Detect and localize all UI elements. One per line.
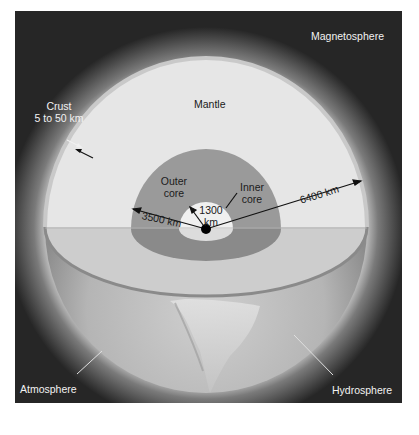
label-mantle: Mantle (194, 98, 226, 110)
label-hydrosphere: Hydrosphere (332, 384, 392, 396)
label-outer-core: Outer core (156, 175, 192, 199)
label-atmosphere: Atmosphere (20, 383, 77, 395)
earth-structure-diagram: Magnetosphere Mantle Crust 5 to 50 km Ou… (15, 11, 402, 403)
label-inner-core-radius: 1300 km (196, 204, 226, 228)
label-magnetosphere: Magnetosphere (311, 30, 384, 42)
label-inner-core: Inner core (234, 181, 270, 205)
label-crust: Crust 5 to 50 km (27, 100, 91, 124)
